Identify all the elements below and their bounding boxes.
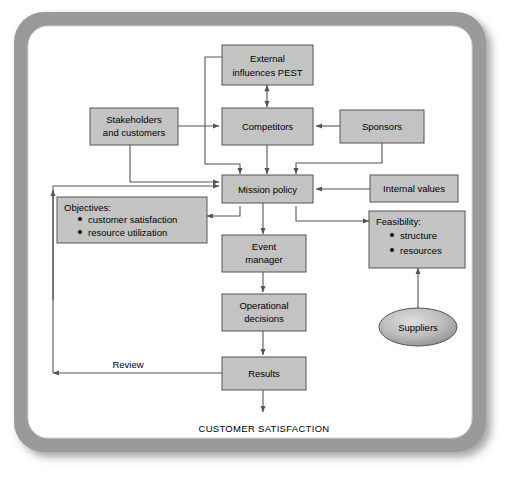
node-results[interactable]: Results bbox=[222, 357, 306, 390]
bullet-dot-icon bbox=[78, 217, 82, 221]
diagram-canvas: External influences PEST Stakeholders an… bbox=[0, 0, 510, 481]
node-event-manager-line1: Event bbox=[252, 241, 277, 252]
node-external-influences-line2: influences PEST bbox=[232, 67, 302, 78]
bullet-dot-icon bbox=[390, 248, 394, 252]
node-competitors-label: Competitors bbox=[242, 121, 293, 132]
node-external-influences-pest[interactable]: External influences PEST bbox=[222, 45, 313, 85]
node-stakeholders-and-customers[interactable]: Stakeholders and customers bbox=[90, 108, 178, 145]
node-results-label: Results bbox=[248, 368, 280, 379]
business-process-diagram: External influences PEST Stakeholders an… bbox=[0, 0, 510, 481]
node-objectives-bullet-1: resource utilization bbox=[88, 227, 167, 238]
node-stakeholders-line2: and customers bbox=[103, 127, 166, 138]
node-feasibility-bullet-1: resources bbox=[400, 245, 442, 256]
node-mission-policy-label: Mission policy bbox=[238, 184, 297, 195]
diagram-footer-title: CUSTOMER SATISFACTION bbox=[198, 423, 329, 434]
node-event-manager-line2: manager bbox=[245, 254, 283, 265]
node-suppliers-label: Suppliers bbox=[398, 322, 438, 333]
node-competitors[interactable]: Competitors bbox=[222, 108, 313, 145]
node-objectives-bullet-0: customer satisfaction bbox=[88, 214, 177, 225]
bullet-dot-icon bbox=[78, 230, 82, 234]
node-feasibility-heading: Feasibility: bbox=[376, 216, 421, 227]
node-external-influences-line1: External bbox=[250, 53, 285, 64]
node-operational-decisions-line2: decisions bbox=[244, 313, 284, 324]
node-sponsors-label: Sponsors bbox=[362, 121, 402, 132]
node-internal-values-label: Internal values bbox=[383, 183, 445, 194]
node-suppliers[interactable]: Suppliers bbox=[379, 308, 457, 346]
bullet-dot-icon bbox=[390, 233, 394, 237]
node-objectives[interactable]: Objectives: customer satisfaction resour… bbox=[57, 197, 207, 243]
node-objectives-heading: Objectives: bbox=[64, 202, 111, 213]
node-operational-decisions[interactable]: Operational decisions bbox=[222, 294, 306, 331]
node-sponsors[interactable]: Sponsors bbox=[340, 110, 424, 143]
node-internal-values[interactable]: Internal values bbox=[370, 175, 458, 202]
node-event-manager[interactable]: Event manager bbox=[222, 235, 306, 272]
node-operational-decisions-line1: Operational bbox=[239, 300, 288, 311]
node-mission-policy[interactable]: Mission policy bbox=[222, 175, 313, 203]
node-stakeholders-line1: Stakeholders bbox=[106, 114, 162, 125]
node-feasibility-bullet-0: structure bbox=[400, 230, 437, 241]
edge-label-review: Review bbox=[112, 359, 143, 370]
node-feasibility[interactable]: Feasibility: structure resources bbox=[369, 211, 465, 268]
